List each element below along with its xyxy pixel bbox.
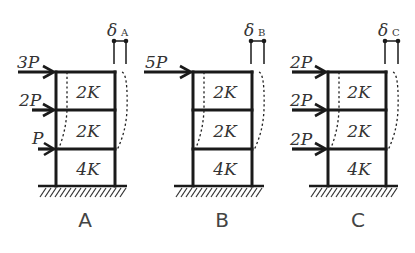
delta-subscript: B <box>258 27 265 38</box>
story-stiffness-2: 2K <box>75 121 101 141</box>
deformed-shape-right <box>117 72 127 150</box>
diagram-canvas: 2K 2K 4K 3P 2P P δ A A <box>0 0 415 253</box>
frame-label-c: C <box>351 208 365 232</box>
story-stiffness-3: 2K <box>212 82 238 102</box>
drift-bracket <box>112 39 129 64</box>
frame-label-b: B <box>215 208 229 232</box>
ground-support <box>309 186 398 197</box>
delta-symbol: δ <box>378 20 388 40</box>
load-label-1: 2P <box>289 129 313 149</box>
story-stiffness-1: 4K <box>75 159 101 179</box>
delta-subscript: C <box>392 27 400 38</box>
deformed-shape-right <box>388 72 398 150</box>
story-stiffness-1: 4K <box>346 159 372 179</box>
story-stiffness-3: 2K <box>75 82 101 102</box>
load-label-2: 2P <box>18 90 42 110</box>
story-stiffness-2: 2K <box>212 121 238 141</box>
drift-bracket <box>383 39 401 64</box>
load-label-1: P <box>31 128 44 148</box>
delta-subscript: A <box>120 27 129 38</box>
frame-label-a: A <box>78 208 92 232</box>
drift-bracket <box>249 39 267 64</box>
deformed-shape-right <box>254 72 264 150</box>
story-stiffness-3: 2K <box>346 82 372 102</box>
load-label-3: 3P <box>17 52 40 72</box>
delta-symbol: δ <box>244 20 254 40</box>
frame-b: 2K 2K 4K 5P δ B B <box>144 20 266 232</box>
story-stiffness-1: 4K <box>212 159 238 179</box>
load-label-2: 2P <box>289 90 313 110</box>
delta-symbol: δ <box>107 20 117 40</box>
story-stiffness-2: 2K <box>346 121 372 141</box>
load-label-3: 5P <box>145 52 168 72</box>
frame-c: 2K 2K 4K 2P 2P 2P δ C C <box>289 20 400 232</box>
load-label-3: 2P <box>289 52 313 72</box>
frame-a: 2K 2K 4K 3P 2P P δ A A <box>17 20 129 232</box>
ground-support <box>38 186 127 197</box>
ground-support <box>174 186 264 197</box>
